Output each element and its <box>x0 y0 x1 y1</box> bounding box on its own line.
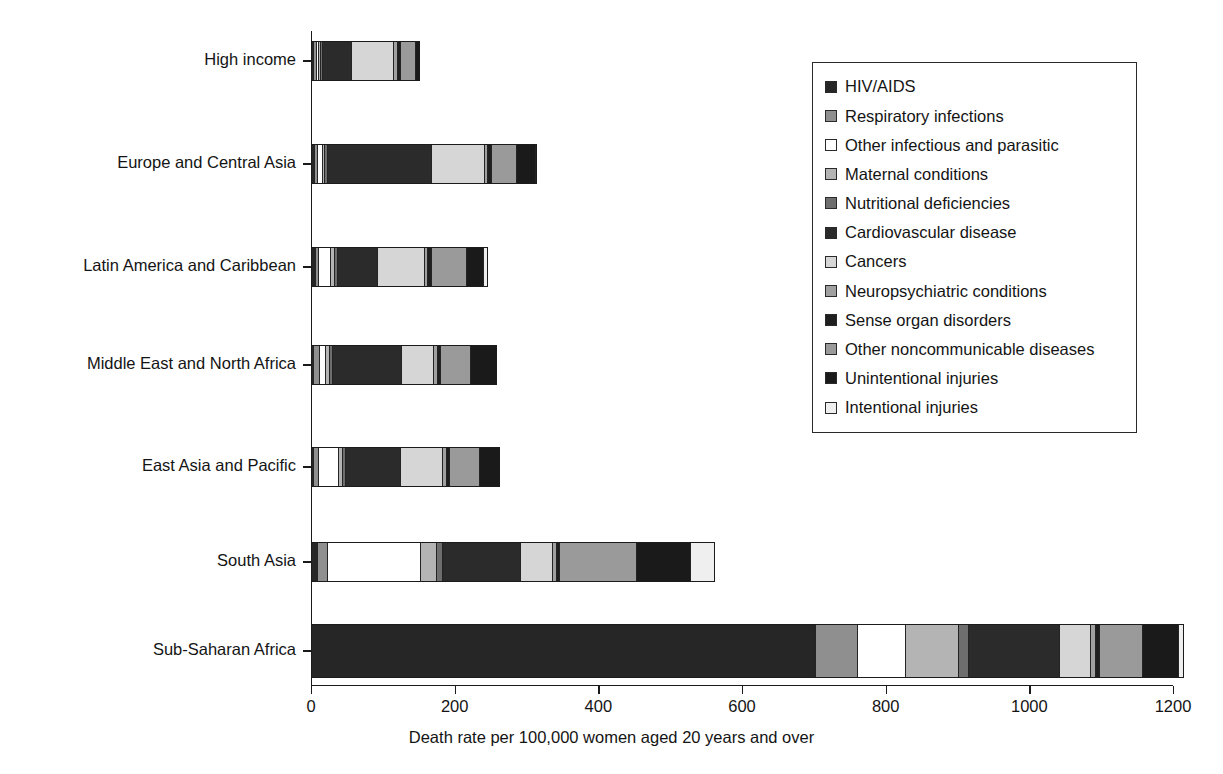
bar-segment-4-6 <box>332 346 401 384</box>
legend-label-9: Sense organ disorders <box>845 312 1011 329</box>
x-axis-tick-label-2: 200 <box>420 697 490 716</box>
legend-swatch-icon-3 <box>825 139 837 151</box>
legend-swatch-icon-11 <box>825 372 837 384</box>
bar-segment-3-11 <box>466 248 483 286</box>
bar-segment-3-7 <box>377 248 424 286</box>
category-label-6: South Asia <box>0 551 296 570</box>
x-axis-tick-3 <box>598 686 599 694</box>
legend-item-10[interactable]: Other noncommunicable diseases <box>825 335 1126 364</box>
x-axis-tick-7 <box>1173 686 1174 694</box>
bar-segment-3-12 <box>483 248 488 286</box>
bar-4 <box>311 345 497 385</box>
category-label-1: High income <box>0 50 296 69</box>
bar-segment-1-10 <box>400 42 415 80</box>
chart-legend: HIV/AIDSRespiratory infectionsOther infe… <box>812 62 1137 433</box>
legend-item-5[interactable]: Nutritional deficiencies <box>825 189 1126 218</box>
bar-segment-3-3 <box>318 248 330 286</box>
bar-segment-6-4 <box>420 543 436 581</box>
bar-segment-7-2 <box>815 625 857 677</box>
legend-item-6[interactable]: Cardiovascular disease <box>825 218 1126 247</box>
bar-segment-7-12 <box>1178 625 1184 677</box>
bar-segment-1-7 <box>351 42 393 80</box>
category-label-7: Sub-Saharan Africa <box>0 640 296 659</box>
bar-segment-5-6 <box>345 448 400 486</box>
bar-segment-1-6 <box>322 42 352 80</box>
bar-2 <box>311 144 537 184</box>
legend-swatch-icon-2 <box>825 110 837 122</box>
bar-segment-2-11 <box>516 145 535 183</box>
bar-segment-5-7 <box>400 448 442 486</box>
x-axis-title: Death rate per 100,000 women aged 20 yea… <box>0 728 1223 747</box>
legend-label-3: Other infectious and parasitic <box>845 137 1059 154</box>
x-axis-tick-6 <box>1029 686 1030 694</box>
bar-segment-2-6 <box>327 145 431 183</box>
legend-label-5: Nutritional deficiencies <box>845 195 1010 212</box>
bar-segment-4-11 <box>470 346 497 384</box>
legend-item-2[interactable]: Respiratory infections <box>825 101 1126 130</box>
legend-label-12: Intentional injuries <box>845 399 978 416</box>
legend-label-10: Other noncommunicable diseases <box>845 341 1094 358</box>
legend-label-11: Unintentional injuries <box>845 370 998 387</box>
bar-segment-7-1 <box>312 625 815 677</box>
legend-swatch-icon-8 <box>825 285 837 297</box>
stacked-bar-chart: High incomeEurope and Central AsiaLatin … <box>0 0 1223 774</box>
legend-item-11[interactable]: Unintentional injuries <box>825 364 1126 393</box>
legend-swatch-icon-4 <box>825 168 837 180</box>
legend-item-7[interactable]: Cancers <box>825 247 1126 276</box>
category-label-3: Latin America and Caribbean <box>0 256 296 275</box>
bar-segment-6-10 <box>559 543 635 581</box>
x-axis-tick-label-7: 1200 <box>1138 697 1208 716</box>
legend-label-1: HIV/AIDS <box>845 78 916 95</box>
bar-segment-5-3 <box>318 448 338 486</box>
bar-3 <box>311 247 488 287</box>
y-axis-tick-3 <box>303 266 311 268</box>
bar-segment-3-10 <box>431 248 466 286</box>
bar-segment-3-6 <box>337 248 377 286</box>
bar-1 <box>311 41 420 81</box>
bar-6 <box>311 542 715 582</box>
x-axis-tick-label-5: 800 <box>851 697 921 716</box>
bar-segment-7-4 <box>905 625 958 677</box>
x-axis-tick-label-6: 1000 <box>994 697 1064 716</box>
legend-swatch-icon-1 <box>825 81 837 93</box>
legend-label-4: Maternal conditions <box>845 166 988 183</box>
bar-segment-4-7 <box>401 346 433 384</box>
legend-item-9[interactable]: Sense organ disorders <box>825 306 1126 335</box>
legend-swatch-icon-12 <box>825 402 837 414</box>
legend-item-4[interactable]: Maternal conditions <box>825 160 1126 189</box>
bar-segment-4-3 <box>319 346 326 384</box>
bar-segment-6-6 <box>442 543 519 581</box>
bar-segment-7-6 <box>968 625 1060 677</box>
bar-segment-7-3 <box>857 625 905 677</box>
legend-item-8[interactable]: Neuropsychiatric conditions <box>825 276 1126 305</box>
legend-item-12[interactable]: Intentional injuries <box>825 393 1126 422</box>
category-label-5: East Asia and Pacific <box>0 456 296 475</box>
legend-item-3[interactable]: Other infectious and parasitic <box>825 130 1126 159</box>
y-axis-tick-2 <box>303 163 311 165</box>
y-axis-tick-5 <box>303 466 311 468</box>
x-axis-tick-label-3: 400 <box>563 697 633 716</box>
x-axis-tick-5 <box>886 686 887 694</box>
x-axis-tick-4 <box>742 686 743 694</box>
legend-label-6: Cardiovascular disease <box>845 224 1017 241</box>
category-label-4: Middle East and North Africa <box>0 354 296 373</box>
legend-label-7: Cancers <box>845 253 906 270</box>
legend-swatch-icon-7 <box>825 256 837 268</box>
bar-7 <box>311 624 1184 678</box>
bar-segment-6-2 <box>317 543 327 581</box>
bar-segment-7-7 <box>1059 625 1090 677</box>
bar-segment-6-7 <box>520 543 553 581</box>
legend-label-2: Respiratory infections <box>845 108 1004 125</box>
bar-segment-7-10 <box>1099 625 1142 677</box>
x-axis-tick-2 <box>455 686 456 694</box>
legend-item-1[interactable]: HIV/AIDS <box>825 72 1126 101</box>
bar-segment-4-10 <box>440 346 470 384</box>
bar-segment-2-10 <box>491 145 516 183</box>
bar-segment-7-11 <box>1142 625 1178 677</box>
bar-segment-2-7 <box>431 145 484 183</box>
legend-swatch-icon-9 <box>825 314 837 326</box>
y-axis-tick-6 <box>303 561 311 563</box>
y-axis-tick-4 <box>303 364 311 366</box>
bar-segment-1-11 <box>415 42 420 80</box>
legend-swatch-icon-5 <box>825 197 837 209</box>
